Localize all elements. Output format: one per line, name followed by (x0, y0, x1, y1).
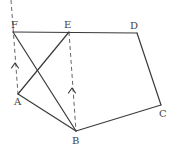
point-label-B: B (72, 135, 79, 146)
point-label-D: D (130, 20, 138, 31)
point-label-C: C (159, 108, 167, 119)
point-label-A: A (13, 96, 22, 107)
segment-BA (18, 94, 76, 131)
segment-DC (137, 33, 161, 105)
arrow-up-icon (69, 88, 76, 93)
dashed-line-1 (11, 0, 18, 94)
point-label-E: E (64, 19, 71, 30)
segment-AE (18, 32, 69, 94)
segment-CB (76, 105, 161, 131)
point-label-F: F (11, 19, 18, 30)
direction-arrows (12, 63, 76, 93)
arrow-up-icon (12, 63, 19, 68)
polygon-segments (13, 32, 161, 131)
segment-FB (13, 32, 76, 131)
dashed-line-2 (69, 32, 76, 131)
geometry-diagram: FEDCBA (0, 0, 174, 153)
segment-FD (13, 32, 137, 33)
